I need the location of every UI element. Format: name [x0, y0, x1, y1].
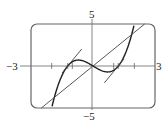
x-max-label: 3	[156, 60, 162, 72]
y-min-label: −5	[83, 110, 95, 122]
tangent-line	[62, 49, 82, 73]
tangent-line	[104, 59, 124, 83]
x-min-label: −3	[6, 60, 18, 72]
y-max-label: 5	[89, 8, 95, 20]
graph: 5 −5 −3 3	[0, 0, 162, 122]
